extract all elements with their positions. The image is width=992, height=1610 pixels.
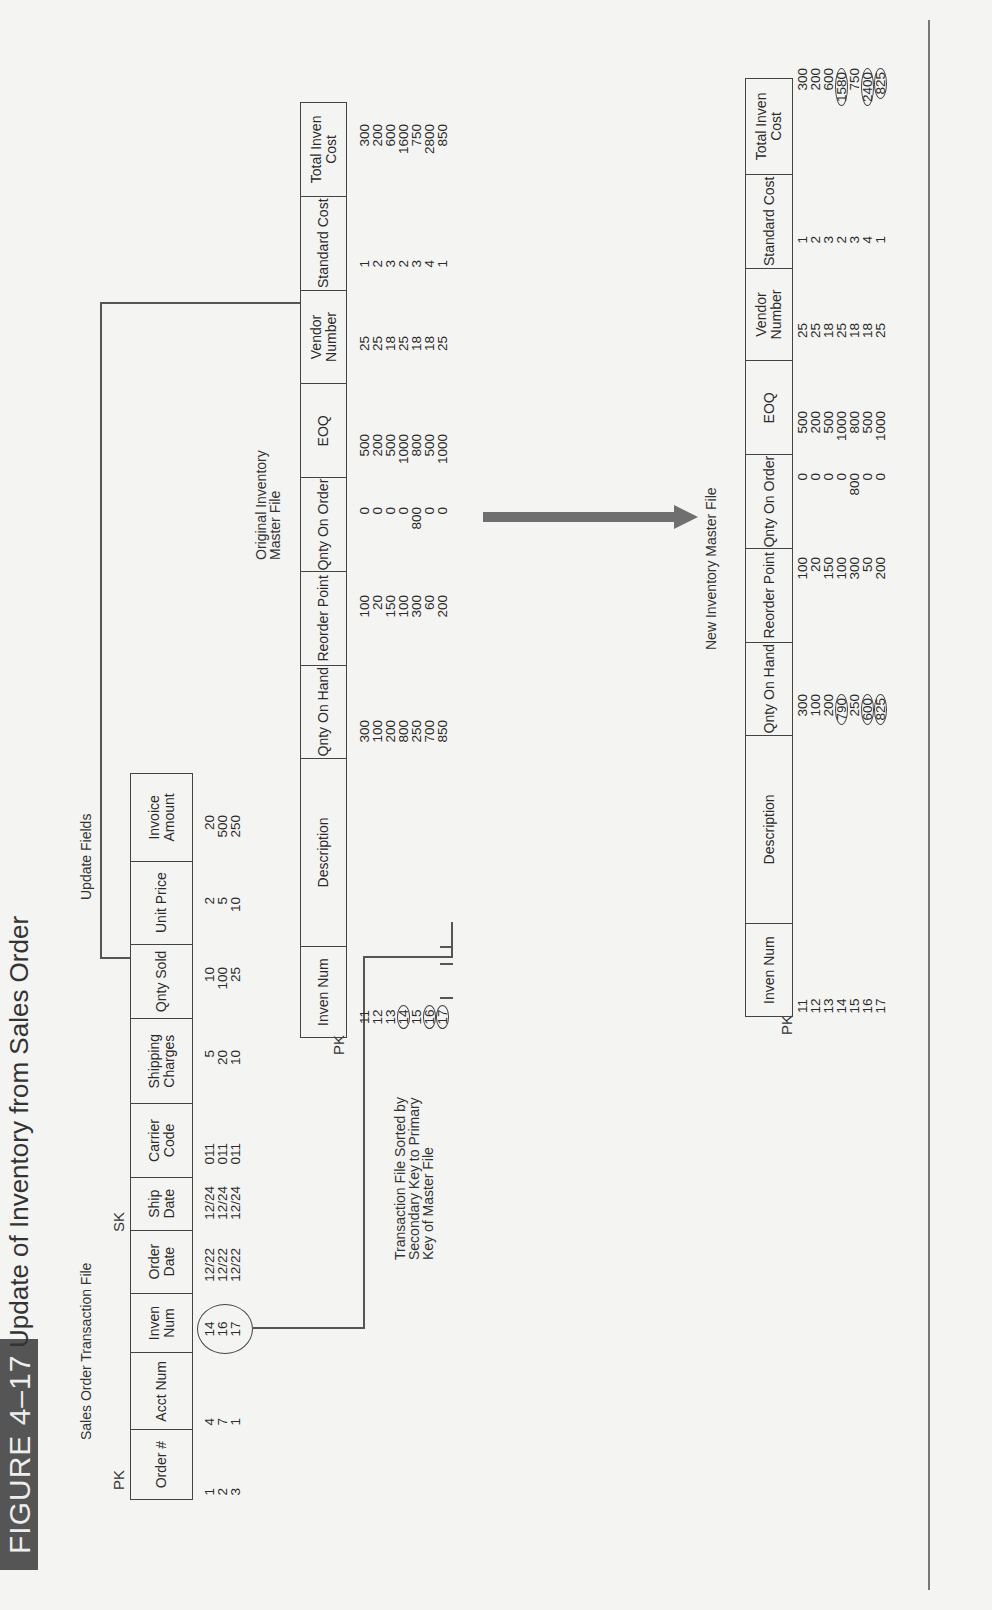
cell: 17 <box>229 1314 242 1344</box>
col-label: Total Inven Cost <box>309 103 339 196</box>
col-label: Qnty On Hand <box>316 667 331 757</box>
col-label: Description <box>316 817 331 887</box>
inven-num-values: 14 16 17 <box>203 1314 242 1344</box>
cell: 1 <box>436 260 449 272</box>
col-invoice-amount: Invoice Amount <box>131 774 192 861</box>
cell: 850 <box>436 124 449 160</box>
title-line: Original Inventory <box>254 450 268 560</box>
cell: 10 <box>229 897 242 922</box>
qnty-sold-values: 10 100 25 <box>203 967 242 1002</box>
cell: 25 <box>229 967 242 1002</box>
col-total-inven-cost: Total Inven Cost <box>746 79 792 174</box>
col-label: Qnty On Order <box>762 456 777 548</box>
update-fields-connector <box>100 957 130 959</box>
col-label: Standard Cost <box>316 198 331 288</box>
col-description: Description <box>301 758 346 947</box>
orig-eoq-values: 500 200 500 1000 800 500 1000 <box>358 434 449 470</box>
cell: 200 <box>436 595 449 625</box>
col-standard-cost: Standard Cost <box>746 174 792 268</box>
col-label: Ship Date <box>147 1178 177 1230</box>
col-label: Standard Cost <box>762 176 777 266</box>
col-label: Shipping Charges <box>147 1019 177 1103</box>
figure-page: FIGURE 4–17 Update of Inventory from Sal… <box>0 0 992 1610</box>
new-eoq-values: 500 200 500 1000 800 500 1000 <box>796 411 887 447</box>
cell: 0 <box>436 507 449 537</box>
col-label: EOQ <box>762 392 777 423</box>
orig-inven-num-values: 11 12 13 14 15 16 17 <box>358 1004 449 1030</box>
col-qnty-on-hand: Qnty On Hand <box>301 665 346 758</box>
highlighted-cell: 17 <box>436 1005 449 1028</box>
new-qnty-on-order-values: 0 0 0 0 800 0 0 <box>796 473 887 503</box>
cell: 850 <box>436 720 449 750</box>
sort-connector <box>440 946 453 948</box>
col-shipping-charges: Shipping Charges <box>131 1018 192 1103</box>
order-date-values: 12/22 12/22 12/22 <box>203 1248 242 1290</box>
cell: 1 <box>874 236 887 248</box>
col-order-num: Order # <box>131 1429 192 1499</box>
cell: 12/22 <box>229 1248 242 1290</box>
col-order-date: Order Date <box>131 1230 192 1293</box>
cell: 1 <box>229 1418 242 1440</box>
orig-qnty-on-hand-values: 300 100 200 800 250 700 850 <box>358 720 449 750</box>
sales-order-header: Order # Acct Num Inven Num Order Date Sh… <box>130 773 193 1500</box>
invoice-amount-values: 20 500 250 <box>203 815 242 845</box>
col-inven-num: Inven Num <box>131 1293 192 1353</box>
col-label: Inven Num <box>147 1294 177 1353</box>
cell: 25 <box>874 323 887 345</box>
sort-note-line: Transaction File Sorted by <box>393 1097 407 1260</box>
cell: 1000 <box>874 411 887 447</box>
sort-connector <box>253 1327 365 1329</box>
col-reorder-point: Reorder Point <box>301 571 346 665</box>
col-eoq: EOQ <box>301 383 346 477</box>
col-label: Acct Num <box>154 1361 169 1422</box>
figure-badge: FIGURE 4–17 <box>0 1339 38 1570</box>
new-master-header: Inven Num Description Qnty On Hand Reord… <box>745 78 793 1017</box>
col-inven-num: Inven Num <box>746 923 792 1016</box>
col-label: Qnty Sold <box>154 951 169 1012</box>
unit-price-values: 2 5 10 <box>203 897 242 922</box>
highlighted-cell: 825 <box>874 68 887 99</box>
col-vendor-number: Vendor Number <box>301 290 346 384</box>
col-label: Vendor Number <box>754 269 784 361</box>
col-label: Qnty On Order <box>316 479 331 571</box>
sort-note-line: Secondary Key to Primary <box>407 1097 421 1260</box>
new-qnty-on-hand-values: 300 100 200 790 250 600 825 <box>796 694 887 730</box>
cell: 250 <box>229 815 242 845</box>
col-label: Carrier Code <box>147 1104 177 1177</box>
update-fields-connector <box>100 302 300 304</box>
cell: 1000 <box>436 434 449 470</box>
col-qnty-sold: Qnty Sold <box>131 944 192 1019</box>
sort-connector <box>451 922 453 958</box>
col-label: Inven Num <box>762 936 777 1004</box>
col-label: Invoice Amount <box>147 774 177 861</box>
cell: 10 <box>229 1050 242 1075</box>
col-ship-date: Ship Date <box>131 1177 192 1230</box>
update-fields-label: Update Fields <box>78 814 94 900</box>
original-master-title: Original Inventory Master File <box>254 450 282 560</box>
new-vendor-number-values: 25 25 18 25 18 18 25 <box>796 323 887 345</box>
sort-connector <box>363 956 453 958</box>
col-label: EOQ <box>316 415 331 446</box>
new-reorder-point-values: 100 20 150 100 300 50 200 <box>796 557 887 587</box>
col-label: Vendor Number <box>309 291 339 384</box>
ship-date-values: 12/24 12/24 12/24 <box>203 1186 242 1228</box>
sort-note: Transaction File Sorted by Secondary Key… <box>393 1097 435 1260</box>
col-label: Reorder Point <box>316 575 331 661</box>
orig-total-inven-cost-values: 300 200 600 1600 750 2800 850 <box>358 124 449 160</box>
cell: 011 <box>229 1143 242 1173</box>
col-vendor-number: Vendor Number <box>746 268 792 361</box>
cell: 200 <box>874 557 887 587</box>
figure-title: Update of Inventory from Sales Order <box>4 916 35 1348</box>
sk-label: SK <box>110 1212 127 1232</box>
pk-label: PK <box>778 1015 795 1035</box>
acct-num-values: 4 7 1 <box>203 1418 242 1440</box>
sort-note-line: Key of Master File <box>421 1097 435 1260</box>
col-label: Reorder Point <box>762 552 777 638</box>
highlighted-cell: 825 <box>874 694 887 725</box>
cell: 0 <box>874 473 887 503</box>
col-carrier-code: Carrier Code <box>131 1103 192 1177</box>
col-label: Inven Num <box>316 958 331 1026</box>
carrier-code-values: 011 011 011 <box>203 1143 242 1173</box>
orig-qnty-on-order-values: 0 0 0 0 800 0 0 <box>358 507 449 537</box>
col-label: Qnty On Hand <box>762 644 777 734</box>
